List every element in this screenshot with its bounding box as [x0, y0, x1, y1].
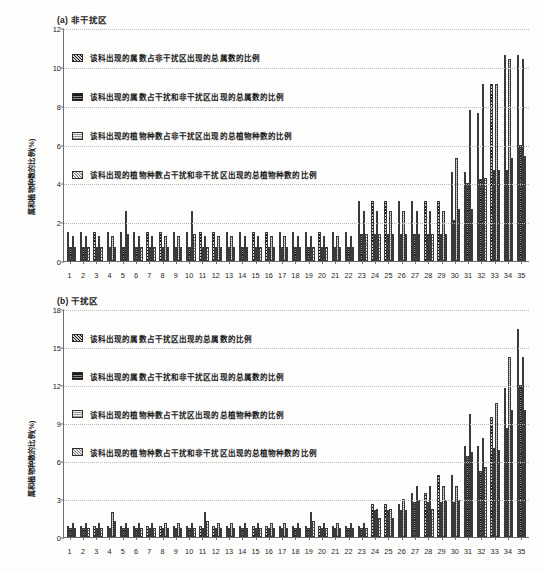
- x-axis-tick-label: 35: [517, 271, 525, 280]
- x-axis-tick: 2: [76, 264, 89, 282]
- x-axis-tick: 2: [76, 540, 89, 558]
- bar: [458, 500, 460, 537]
- x-axis-tick: 24: [368, 264, 381, 282]
- y-axis-tick-label: 12: [53, 25, 61, 34]
- x-axis-tick-label: 20: [318, 547, 326, 556]
- x-axis-tick-label: 17: [278, 547, 286, 556]
- x-axis-tick: 25: [382, 264, 395, 282]
- legend-row: 该科出现的植物种数占非干扰区出现的总植物种数的比例: [72, 116, 317, 155]
- bar: [484, 178, 486, 261]
- x-axis-tick-label: 29: [437, 271, 445, 280]
- x-axis-tick: 19: [302, 540, 315, 558]
- x-axis-tick-label: 21: [331, 547, 339, 556]
- bar: [220, 528, 222, 537]
- bar: [233, 528, 235, 537]
- x-axis-tick-label: 8: [161, 271, 165, 280]
- y-axis-tick-mark: [61, 223, 64, 224]
- bar: [431, 509, 433, 537]
- bar: [325, 247, 327, 261]
- x-axis-tick: 5: [116, 264, 129, 282]
- y-axis-tick-mark: [61, 106, 64, 107]
- x-axis-tick: 29: [435, 540, 448, 558]
- x-axis-tick-label: 11: [199, 271, 207, 280]
- legend-row: 该科出现的植物种数占干扰和非干扰区出现的总植物种数的比例: [72, 155, 317, 194]
- x-axis-tick: 30: [448, 540, 461, 558]
- x-axis-tick: 7: [143, 540, 156, 558]
- bar: [524, 156, 526, 261]
- y-axis-tick-label: 8: [57, 102, 61, 111]
- x-axis-tick: 12: [209, 264, 222, 282]
- bar: [325, 528, 327, 537]
- x-axis-tick-label: 9: [174, 271, 178, 280]
- bar: [511, 410, 513, 537]
- x-axis-tick-label: 21: [331, 271, 339, 280]
- bar: [246, 247, 248, 261]
- x-axis-tick-label: 3: [94, 271, 98, 280]
- legend-swatch-diagonal-stripe: [72, 54, 83, 62]
- x-axis-tick-label: 1: [68, 271, 72, 280]
- x-axis-tick-label: 22: [344, 547, 352, 556]
- x-axis-tick-label: 10: [185, 547, 193, 556]
- x-axis-tick-label: 34: [504, 271, 512, 280]
- x-axis-tick-label: 25: [384, 271, 392, 280]
- x-axis-tick: 25: [382, 540, 395, 558]
- y-axis-tick-mark: [61, 462, 64, 463]
- x-axis-tick-label: 11: [199, 547, 207, 556]
- x-axis-tick-label: 23: [358, 547, 366, 556]
- x-axis-tick: 30: [448, 264, 461, 282]
- x-axis-tick-label: 12: [212, 271, 220, 280]
- gridline: [64, 310, 529, 311]
- bar: [299, 247, 301, 261]
- bar: [167, 528, 169, 537]
- x-axis-tick: 5: [116, 540, 129, 558]
- x-axis-tick: 8: [156, 540, 169, 558]
- legend-row: 该科出现的属数占干扰区出现的总属数的比例: [72, 319, 317, 357]
- bar: [140, 528, 142, 537]
- bar: [167, 247, 169, 261]
- legend-label: 该科出现的属数占非干扰区出现的总属数的比例: [90, 52, 260, 63]
- bar: [286, 247, 288, 261]
- legend-label: 该科出现的植物种数占干扰和非干扰区出现的总植物种数的比例: [90, 169, 317, 180]
- x-axis-tick-label: 1: [68, 547, 72, 556]
- bar: [352, 247, 354, 261]
- y-axis-tick-label: 2: [57, 219, 61, 228]
- x-axis-tick: 21: [329, 540, 342, 558]
- bar: [87, 247, 89, 261]
- x-axis-tick-label: 16: [265, 547, 273, 556]
- x-axis-tick: 1: [63, 540, 76, 558]
- bar: [392, 234, 394, 261]
- x-axis-tick: 15: [249, 540, 262, 558]
- x-axis-tick: 34: [501, 540, 514, 558]
- y-axis-tick-mark: [61, 184, 64, 185]
- x-axis-tick-label: 19: [305, 271, 313, 280]
- x-axis-tick: 22: [342, 540, 355, 558]
- bar: [100, 247, 102, 261]
- x-axis-tick-label: 5: [121, 547, 125, 556]
- x-axis-tick: 12: [209, 540, 222, 558]
- bar: [74, 247, 76, 261]
- bar: [259, 247, 261, 261]
- x-axis-tick: 10: [183, 540, 196, 558]
- x-axis-tick: 15: [249, 264, 262, 282]
- y-axis-tick-label: 10: [53, 63, 61, 72]
- x-axis-tick: 7: [143, 264, 156, 282]
- y-axis-tick-mark: [61, 29, 64, 30]
- x-axis-tick-label: 20: [318, 271, 326, 280]
- bar: [312, 247, 314, 261]
- x-axis-tick-label: 2: [81, 547, 85, 556]
- x-axis-tick-label: 33: [491, 271, 499, 280]
- bar: [74, 528, 76, 537]
- panel-b-title: (b) 干扰区: [57, 294, 99, 306]
- y-axis-tick-mark: [61, 310, 64, 311]
- x-axis-tick: 22: [342, 264, 355, 282]
- bar: [352, 528, 354, 537]
- x-axis-tick-label: 19: [305, 547, 313, 556]
- y-axis-tick-label: 15: [53, 344, 61, 353]
- x-axis-tick-label: 26: [398, 271, 406, 280]
- x-axis-tick-label: 4: [107, 271, 111, 280]
- bar: [259, 528, 261, 537]
- x-axis-tick: 29: [435, 264, 448, 282]
- x-axis-tick-label: 2: [81, 271, 85, 280]
- bar: [365, 528, 367, 537]
- x-axis-tick-label: 29: [437, 547, 445, 556]
